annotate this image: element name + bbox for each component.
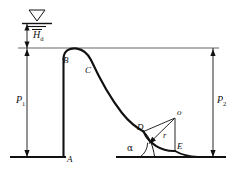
spillway-diagram: Hd P1 P2 A B C D E o r α [0,0,235,175]
label-point-b: B [63,56,69,65]
bucket-radius-lines [144,118,176,151]
downstream-face [91,60,144,132]
label-p2: P2 [217,95,226,108]
bucket-arc [144,132,176,152]
dimension-p2 [210,48,215,157]
angle-alpha-arc [140,143,148,157]
label-point-d: D [137,123,144,132]
label-point-a: A [67,155,73,164]
diagram-canvas [0,0,235,175]
label-radius: r [163,131,166,140]
label-point-e: E [177,142,183,151]
label-point-c: C [85,66,91,75]
dimension-hd [24,24,29,48]
label-head: Hd [33,30,43,43]
label-bucket-center: o [177,108,182,117]
label-angle-alpha: α [127,144,133,153]
label-p1: P1 [16,95,25,108]
